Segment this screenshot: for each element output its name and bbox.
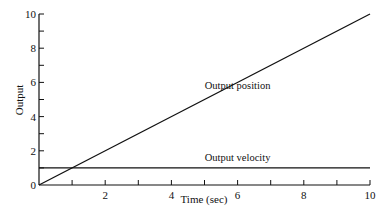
y-tick-label: 4 bbox=[31, 111, 37, 123]
x-tick-label: 10 bbox=[365, 189, 377, 201]
y-tick-label: 6 bbox=[31, 76, 37, 88]
annotations: Output positionOutput velocity bbox=[205, 80, 271, 163]
y-tick-label: 10 bbox=[25, 8, 37, 20]
x-tick-label: 6 bbox=[235, 189, 241, 201]
y-tick-label: 0 bbox=[31, 179, 37, 191]
x-tick-label: 8 bbox=[301, 189, 307, 201]
y-tick-labels: 0246810 bbox=[25, 8, 37, 191]
line-chart: 0246810 246810 Output positionOutput vel… bbox=[0, 0, 391, 218]
output-position-label: Output position bbox=[205, 80, 271, 91]
x-tick-label: 4 bbox=[169, 189, 175, 201]
x-tick-labels: 246810 bbox=[102, 189, 376, 201]
y-axis-label: Output bbox=[13, 85, 25, 116]
x-axis-label: Time (sec) bbox=[181, 193, 228, 206]
output-velocity-label: Output velocity bbox=[205, 152, 271, 163]
y-tick-label: 8 bbox=[31, 42, 37, 54]
x-tick-label: 2 bbox=[102, 189, 108, 201]
y-tick-label: 2 bbox=[31, 145, 37, 157]
